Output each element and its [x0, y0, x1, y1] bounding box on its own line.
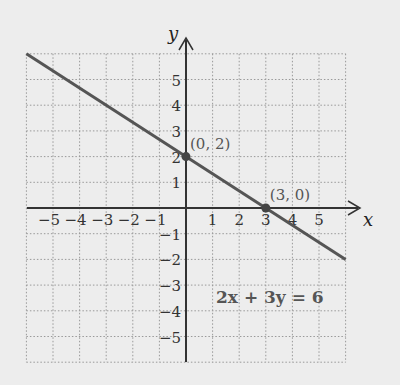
x-tick-label: 2: [234, 211, 244, 229]
point-marker: [182, 152, 191, 161]
x-tick-label: 5: [314, 211, 324, 229]
y-tick-label: 1: [171, 174, 181, 192]
x-axis-label: x: [363, 209, 373, 230]
y-tick-label: −5: [159, 329, 181, 347]
y-axis-label: y: [167, 23, 179, 44]
y-tick-label: −3: [159, 277, 181, 295]
x-tick-label: 1: [208, 211, 218, 229]
y-tick-label: 3: [171, 123, 181, 141]
equation-annotation: 2x + 3y = 6: [216, 287, 324, 307]
x-tick-label: −3: [91, 211, 113, 229]
point-label: (0, 2): [190, 135, 230, 153]
x-tick-label: 3: [261, 211, 271, 229]
x-tick-label: −4: [65, 211, 87, 229]
line-graph: x y −5−4−3−2−11234554321−1−2−3−4−5 (0, 2…: [0, 0, 400, 385]
y-tick-label: 5: [171, 72, 181, 90]
x-tick-label: −5: [38, 211, 60, 229]
y-tick-label: −1: [159, 226, 181, 244]
point-label: (3, 0): [270, 186, 310, 204]
y-tick-label: 4: [171, 97, 181, 115]
y-tick-label: −4: [159, 303, 181, 321]
point-marker: [261, 204, 270, 213]
x-tick-label: −2: [118, 211, 140, 229]
y-tick-label: −2: [159, 251, 181, 269]
